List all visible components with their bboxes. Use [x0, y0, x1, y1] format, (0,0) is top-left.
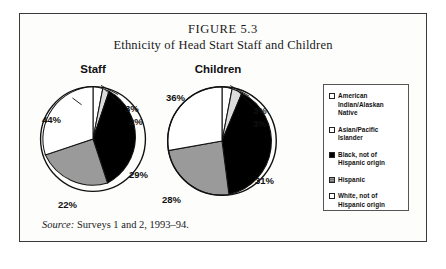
pct-children-asian-pacific: 3%: [253, 118, 267, 129]
white-square-icon: [329, 193, 335, 199]
legend-item-american-indian[interactable]: American Indian/Alaskan Native: [329, 92, 404, 118]
pct-children-white: 36%: [166, 92, 185, 103]
figure-number: FIGURE 5.3: [20, 22, 426, 37]
white-square-icon: [329, 93, 335, 99]
pct-children-american-indian: 3%: [253, 105, 267, 116]
legend-item-white[interactable]: White, not of Hispanic origin: [329, 192, 404, 209]
legend-label-american-indian: American Indian/Alaskan Native: [338, 92, 404, 118]
pct-staff-hispanic: 22%: [58, 199, 77, 210]
source-label: Source:: [42, 219, 74, 230]
pct-children-hispanic: 28%: [162, 194, 181, 205]
legend-label-white: White, not of Hispanic origin: [338, 192, 404, 209]
black-square-icon: [329, 152, 335, 158]
legend-item-hispanic[interactable]: Hispanic: [329, 176, 404, 185]
pct-staff-american-indian: 3%: [125, 103, 139, 114]
gray-square-icon: [329, 177, 335, 183]
legend-item-asian-pacific[interactable]: Asian/Pacific Islander: [329, 126, 404, 143]
pct-children-black: 31%: [255, 175, 274, 186]
chart-heading-staff: Staff: [33, 63, 153, 75]
white-square-icon: [329, 127, 335, 133]
legend: American Indian/Alaskan Native Asian/Pac…: [323, 84, 409, 211]
chart-heading-children: Children: [158, 63, 278, 75]
legend-label-black: Black, not of Hispanic origin: [338, 151, 404, 168]
pct-staff-black: 29%: [129, 169, 148, 180]
figure-title-block: FIGURE 5.3 Ethnicity of Head Start Staff…: [20, 22, 426, 53]
source-text: Surveys 1 and 2, 1993–94.: [77, 219, 189, 230]
figure-frame: FIGURE 5.3 Ethnicity of Head Start Staff…: [19, 13, 427, 242]
legend-label-asian-pacific: Asian/Pacific Islander: [338, 126, 404, 143]
figure-caption: Ethnicity of Head Start Staff and Childr…: [20, 37, 426, 53]
pct-staff-asian-pacific: 2%: [129, 116, 143, 127]
pct-staff-white: 44%: [42, 114, 61, 125]
legend-label-hispanic: Hispanic: [338, 176, 365, 185]
source-line: Source: Surveys 1 and 2, 1993–94.: [42, 219, 189, 230]
legend-item-black[interactable]: Black, not of Hispanic origin: [329, 151, 404, 168]
